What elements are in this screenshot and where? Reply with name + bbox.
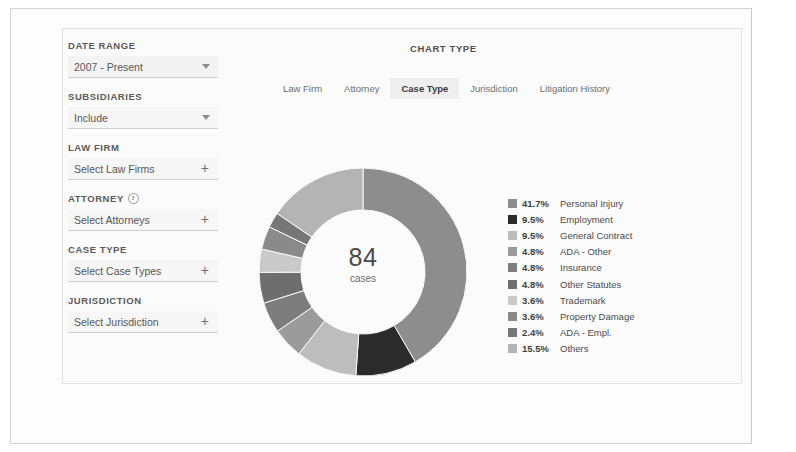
legend-label: Trademark <box>560 295 606 306</box>
legend-label: Employment <box>560 214 613 225</box>
law-firm-value: Select Law Firms <box>74 163 201 175</box>
filter-label-law-firm: LAW FIRM <box>68 142 218 153</box>
legend-percent: 15.5% <box>522 343 555 354</box>
legend-percent: 4.8% <box>522 279 555 290</box>
tab-law-firm[interactable]: Law Firm <box>272 78 333 99</box>
filter-case-type: CASE TYPE Select Case Types + <box>68 244 218 282</box>
legend-label: Property Damage <box>560 311 634 322</box>
legend-label: Other Statutes <box>560 279 621 290</box>
info-icon[interactable]: i <box>128 193 139 204</box>
legend-percent: 41.7% <box>522 198 555 209</box>
tab-attorney[interactable]: Attorney <box>333 78 390 99</box>
legend-item[interactable]: 4.8%Other Statutes <box>508 276 634 292</box>
legend-item[interactable]: 3.6%Trademark <box>508 292 634 308</box>
attorney-value: Select Attorneys <box>74 214 201 226</box>
filter-label-subsidiaries: SUBSIDIARIES <box>68 91 218 102</box>
tab-case-type[interactable]: Case Type <box>390 78 459 99</box>
plus-icon[interactable]: + <box>201 212 209 226</box>
law-firm-select[interactable]: Select Law Firms + <box>68 158 218 180</box>
legend-color-swatch <box>508 263 517 272</box>
filter-label-text: SUBSIDIARIES <box>68 91 142 102</box>
legend-label: ADA - Other <box>560 246 611 257</box>
legend-color-swatch <box>508 344 517 353</box>
attorney-select[interactable]: Select Attorneys + <box>68 209 218 231</box>
filter-label-text: CASE TYPE <box>68 244 127 255</box>
legend-percent: 9.5% <box>522 214 555 225</box>
legend-item[interactable]: 4.8%Insurance <box>508 260 634 276</box>
filter-label-text: LAW FIRM <box>68 142 119 153</box>
legend-item[interactable]: 41.7%Personal Injury <box>508 195 634 211</box>
filter-date-range: DATE RANGE 2007 - Present <box>68 40 218 78</box>
chart-legend: 41.7%Personal Injury9.5%Employment9.5%Ge… <box>508 195 634 357</box>
plus-icon[interactable]: + <box>201 314 209 328</box>
filter-label-attorney: ATTORNEY i <box>68 193 218 204</box>
tab-jurisdiction[interactable]: Jurisdiction <box>459 78 529 99</box>
legend-color-swatch <box>508 247 517 256</box>
legend-label: General Contract <box>560 230 632 241</box>
legend-label: Others <box>560 343 589 354</box>
legend-item[interactable]: 9.5%Employment <box>508 211 634 227</box>
donut-center-value: 84 <box>256 243 470 272</box>
legend-color-swatch <box>508 215 517 224</box>
filters-sidebar: DATE RANGE 2007 - Present SUBSIDIARIES I… <box>68 40 218 346</box>
filter-label-text: ATTORNEY <box>68 193 124 204</box>
subsidiaries-select[interactable]: Include <box>68 107 218 129</box>
legend-label: Insurance <box>560 262 602 273</box>
jurisdiction-select[interactable]: Select Jurisdiction + <box>68 311 218 333</box>
donut-center-label: cases <box>256 273 470 284</box>
legend-color-swatch <box>508 280 517 289</box>
legend-color-swatch <box>508 231 517 240</box>
jurisdiction-value: Select Jurisdiction <box>74 316 201 328</box>
filter-attorney: ATTORNEY i Select Attorneys + <box>68 193 218 231</box>
subsidiaries-value: Include <box>74 112 202 124</box>
legend-color-swatch <box>508 199 517 208</box>
chevron-down-icon <box>202 64 210 69</box>
filter-label-date-range: DATE RANGE <box>68 40 218 51</box>
filter-label-text: JURISDICTION <box>68 295 142 306</box>
legend-color-swatch <box>508 328 517 337</box>
legend-item[interactable]: 4.8%ADA - Other <box>508 244 634 260</box>
legend-percent: 9.5% <box>522 230 555 241</box>
date-range-value: 2007 - Present <box>74 61 202 73</box>
case-type-donut-chart: 84 cases <box>256 165 470 379</box>
chevron-down-icon <box>202 115 210 120</box>
filter-label-text: DATE RANGE <box>68 40 136 51</box>
tab-litigation-history[interactable]: Litigation History <box>529 78 621 99</box>
filter-jurisdiction: JURISDICTION Select Jurisdiction + <box>68 295 218 333</box>
legend-item[interactable]: 3.6%Property Damage <box>508 308 634 324</box>
legend-color-swatch <box>508 312 517 321</box>
plus-icon[interactable]: + <box>201 161 209 175</box>
case-type-value: Select Case Types <box>74 265 201 277</box>
legend-color-swatch <box>508 296 517 305</box>
filter-law-firm: LAW FIRM Select Law Firms + <box>68 142 218 180</box>
legend-label: ADA - Empl. <box>560 327 612 338</box>
legend-item[interactable]: 2.4%ADA - Empl. <box>508 325 634 341</box>
legend-percent: 2.4% <box>522 327 555 338</box>
case-type-select[interactable]: Select Case Types + <box>68 260 218 282</box>
filter-subsidiaries: SUBSIDIARIES Include <box>68 91 218 129</box>
legend-label: Personal Injury <box>560 198 623 209</box>
legend-percent: 4.8% <box>522 262 555 273</box>
plus-icon[interactable]: + <box>201 263 209 277</box>
date-range-select[interactable]: 2007 - Present <box>68 56 218 78</box>
legend-percent: 3.6% <box>522 295 555 306</box>
legend-percent: 3.6% <box>522 311 555 322</box>
filter-label-jurisdiction: JURISDICTION <box>68 295 218 306</box>
chart-type-tabs: Law Firm Attorney Case Type Jurisdiction… <box>272 78 672 99</box>
legend-item[interactable]: 9.5%General Contract <box>508 227 634 243</box>
chart-type-heading: CHART TYPE <box>410 43 477 54</box>
legend-item[interactable]: 15.5%Others <box>508 341 634 357</box>
donut-svg <box>256 165 470 379</box>
filter-label-case-type: CASE TYPE <box>68 244 218 255</box>
legend-percent: 4.8% <box>522 246 555 257</box>
